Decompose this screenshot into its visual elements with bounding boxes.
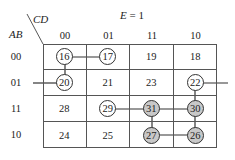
- map-cell: 28: [43, 96, 87, 122]
- circled-minterm: 16: [56, 48, 73, 65]
- minterm: 24: [56, 127, 73, 144]
- circled-minterm: 20: [56, 74, 73, 91]
- circled-minterm: 17: [99, 48, 116, 65]
- map-cell: 27: [130, 122, 174, 148]
- map-cell: 31: [130, 96, 174, 122]
- map-cell: 17: [87, 44, 131, 70]
- circled-minterm: 26: [187, 127, 204, 144]
- map-cell: 20: [43, 70, 87, 96]
- minterm: 23: [143, 74, 160, 91]
- map-cell: 23: [130, 70, 174, 96]
- map-cell: 30: [174, 96, 218, 122]
- map-cell: 18: [174, 44, 218, 70]
- map-cell: 16: [43, 44, 87, 70]
- karnaugh-map-grid: 16171918202123222829313024252726: [43, 44, 217, 148]
- minterm: 25: [99, 127, 116, 144]
- circled-minterm: 27: [143, 127, 160, 144]
- minterm: 21: [99, 74, 116, 91]
- minterm: 28: [56, 100, 73, 117]
- minterm: 18: [187, 48, 204, 65]
- circled-minterm: 30: [187, 100, 204, 117]
- map-cell: 22: [174, 70, 218, 96]
- map-cell: 21: [87, 70, 131, 96]
- map-cell: 26: [174, 122, 218, 148]
- map-cell: 25: [87, 122, 131, 148]
- map-cell: 19: [130, 44, 174, 70]
- map-cell: 24: [43, 122, 87, 148]
- map-cell: 29: [87, 96, 131, 122]
- circled-minterm: 29: [99, 100, 116, 117]
- circled-minterm: 31: [143, 100, 160, 117]
- circled-minterm: 22: [187, 74, 204, 91]
- minterm: 19: [143, 48, 160, 65]
